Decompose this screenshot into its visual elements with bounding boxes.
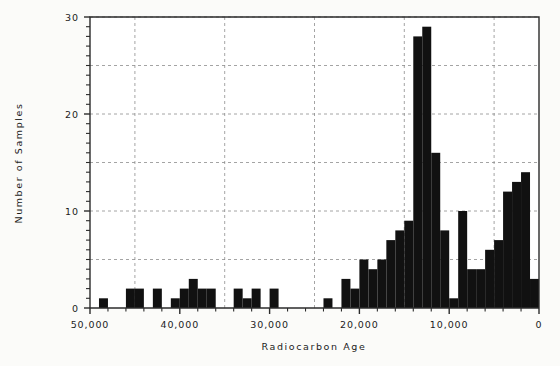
histogram-bar: [431, 153, 440, 308]
histogram-bar: [189, 279, 198, 308]
histogram-bar: [422, 27, 431, 308]
histogram-bar: [413, 36, 422, 308]
histogram-bar: [530, 279, 539, 308]
histogram-bar: [485, 250, 494, 308]
histogram-bar: [512, 182, 521, 308]
histogram-bar: [207, 289, 216, 308]
radiocarbon-age-histogram: 50,00040,00030,00020,00010,0000 0102030 …: [0, 0, 560, 366]
histogram-bar: [234, 289, 243, 308]
histogram-bar: [458, 211, 467, 308]
histogram-bar: [350, 289, 359, 308]
histogram-bar: [252, 289, 261, 308]
histogram-bar: [99, 298, 108, 308]
y-axis-tick-labels: 0102030: [65, 12, 79, 314]
histogram-bar: [386, 240, 395, 308]
y-axis-label: Number of Samples: [13, 102, 24, 223]
x-tick-label: 20,000: [340, 319, 379, 330]
histogram-bar: [377, 260, 386, 309]
x-axis-tick-labels: 50,00040,00030,00020,00010,0000: [71, 319, 543, 330]
x-tick-label: 50,000: [71, 319, 110, 330]
x-tick-label: 10,000: [430, 319, 469, 330]
y-tick-label: 20: [65, 109, 79, 120]
histogram-bar: [521, 172, 530, 308]
histogram-bar: [395, 230, 404, 308]
histogram-bar: [467, 269, 476, 308]
histogram-bar: [359, 260, 368, 309]
histogram-bar: [243, 298, 252, 308]
histogram-bar: [404, 221, 413, 308]
histogram-bar: [126, 289, 135, 308]
histogram-bar: [153, 289, 162, 308]
histogram-bar: [494, 240, 503, 308]
histogram-bar: [135, 289, 144, 308]
histogram-bar: [180, 289, 189, 308]
histogram-bar: [440, 230, 449, 308]
x-tick-label: 40,000: [160, 319, 199, 330]
histogram-figure: 50,00040,00030,00020,00010,0000 0102030 …: [0, 0, 560, 366]
histogram-bar: [323, 298, 332, 308]
x-axis-ticks: [90, 308, 539, 314]
histogram-bar: [198, 289, 207, 308]
histogram-bar: [341, 279, 350, 308]
histogram-bar: [503, 192, 512, 308]
x-axis-label: Radiocarbon Age: [262, 341, 367, 352]
y-tick-label: 0: [72, 303, 79, 314]
histogram-bar: [270, 289, 279, 308]
x-tick-label: 30,000: [250, 319, 289, 330]
y-tick-label: 30: [65, 12, 79, 23]
x-tick-label: 0: [536, 319, 543, 330]
y-axis-ticks: [84, 17, 90, 308]
histogram-bar: [368, 269, 377, 308]
histogram-bar: [449, 298, 458, 308]
histogram-bar: [171, 298, 180, 308]
histogram-bar: [476, 269, 485, 308]
y-tick-label: 10: [65, 206, 79, 217]
